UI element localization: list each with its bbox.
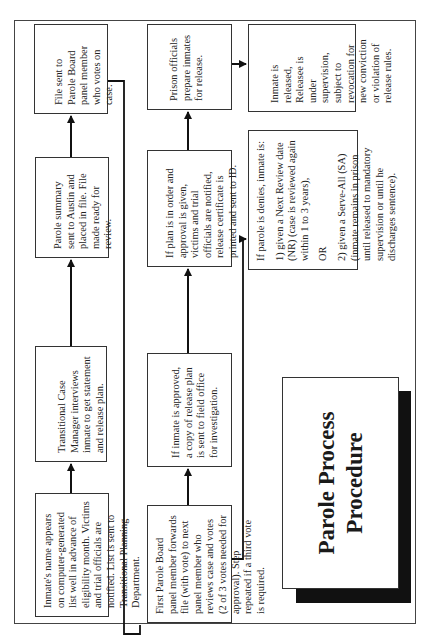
- step-case-manager: Transitional Case Manager interviews inm…: [35, 346, 107, 462]
- step-text: If inmate is approved, a copy of release…: [170, 367, 219, 458]
- step-text: Prison officials prepare inmates for rel…: [168, 35, 204, 101]
- arrow-first-panel-to-denied: [232, 239, 246, 559]
- step-text: File sent to Parole Board panel member w…: [53, 46, 114, 105]
- step-first-panel: First Parole Board panel member forwards…: [147, 505, 232, 623]
- step-text: Inmate is released, Releasee is under su…: [269, 39, 393, 103]
- title-box: Parole Process Procedure: [282, 377, 399, 589]
- step-eligibility-list: Inmate's name appears on computer-genera…: [35, 493, 109, 617]
- denied-or: OR: [317, 138, 330, 261]
- step-text: First Parole Board panel member forwards…: [154, 515, 266, 614]
- step-file-sent: File sent to Parole Board panel member w…: [34, 24, 108, 114]
- step-approved-copy: If inmate is approved, a copy of release…: [147, 353, 232, 467]
- title-line-2: Procedure: [341, 432, 369, 533]
- step-text: Transitional Case Manager interviews inm…: [56, 356, 105, 453]
- step-text: Parole summary sent to Austin and placed…: [52, 173, 113, 249]
- step-text: If plan is in order and approval is give…: [164, 165, 238, 258]
- step-denied: If parole is denies, inmate is: 1) given…: [248, 130, 358, 270]
- step-plan-in-order: If plan is in order and approval is give…: [147, 150, 232, 267]
- step-released: Inmate is released, Releasee is under su…: [248, 24, 356, 112]
- denied-intro: If parole is denies, inmate is:: [255, 138, 268, 261]
- denied-option-2: 2) given a Serve-All (SA) (inmate remain…: [336, 138, 399, 261]
- step-parole-summary: Parole summary sent to Austin and placed…: [35, 157, 109, 258]
- step-prison-officials: Prison officials prepare inmates for rel…: [147, 24, 232, 110]
- denied-option-1: 1) given a Next Review date (NR) (case i…: [274, 138, 312, 261]
- parole-process-diagram: Inmate's name appears on computer-genera…: [0, 0, 427, 639]
- title-line-1: Parole Process: [313, 412, 341, 555]
